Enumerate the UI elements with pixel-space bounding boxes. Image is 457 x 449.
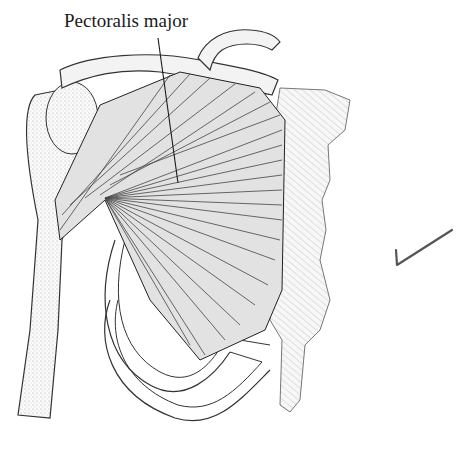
checkmark-icon xyxy=(396,230,452,265)
first-rib xyxy=(198,30,280,70)
anatomy-illustration xyxy=(0,0,457,449)
